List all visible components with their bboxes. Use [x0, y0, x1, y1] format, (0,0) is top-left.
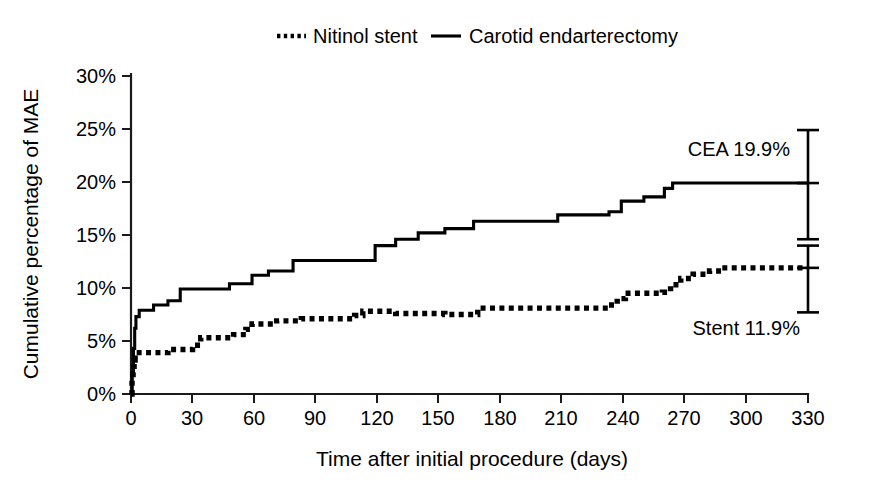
y-tick-label-30: 30%	[76, 65, 116, 87]
error-bars	[797, 130, 819, 312]
x-axis-ticks: 0 30 60 90 120 150 180 210 240 270 300 3…	[125, 394, 824, 429]
cea-final-label: CEA 19.9%	[688, 138, 791, 160]
legend-label-nitinol-stent: Nitinol stent	[313, 25, 418, 47]
y-tick-label-15: 15%	[76, 224, 116, 246]
x-tick-label-60: 60	[243, 407, 265, 429]
error-bar-nitinol-stent	[797, 246, 819, 313]
chart-axes	[131, 74, 808, 394]
x-tick-label-210: 210	[544, 407, 577, 429]
x-tick-label-0: 0	[125, 407, 136, 429]
x-tick-label-300: 300	[729, 407, 762, 429]
series-line-carotid-endarterectomy	[131, 183, 808, 394]
error-bar-carotid-endarterectomy	[797, 130, 819, 239]
chart-figure: Nitinol stent Carotid endarterectomy 0% …	[0, 0, 877, 486]
chart-series	[131, 183, 808, 394]
stent-final-label: Stent 11.9%	[693, 317, 801, 339]
x-tick-label-270: 270	[667, 407, 700, 429]
legend-label-carotid-endarterectomy: Carotid endarterectomy	[469, 25, 678, 47]
y-tick-label-10: 10%	[76, 277, 116, 299]
y-tick-label-0: 0%	[87, 383, 116, 405]
chart-legend: Nitinol stent Carotid endarterectomy	[277, 25, 678, 47]
y-tick-label-20: 20%	[76, 171, 116, 193]
x-tick-label-240: 240	[606, 407, 639, 429]
x-tick-label-30: 30	[181, 407, 203, 429]
x-tick-label-150: 150	[421, 407, 454, 429]
y-tick-label-25: 25%	[76, 118, 116, 140]
x-tick-label-180: 180	[483, 407, 516, 429]
x-axis-title: Time after initial procedure (days)	[316, 447, 628, 470]
y-axis-title: Cumulative percentage of MAE	[19, 89, 42, 380]
x-tick-label-120: 120	[360, 407, 393, 429]
y-axis-ticks: 0% 5% 10% 15% 20% 25% 30%	[76, 65, 131, 405]
y-tick-label-5: 5%	[87, 330, 116, 352]
x-tick-label-90: 90	[304, 407, 326, 429]
cumulative-mae-chart: Nitinol stent Carotid endarterectomy 0% …	[0, 0, 877, 486]
x-tick-label-330: 330	[791, 407, 824, 429]
